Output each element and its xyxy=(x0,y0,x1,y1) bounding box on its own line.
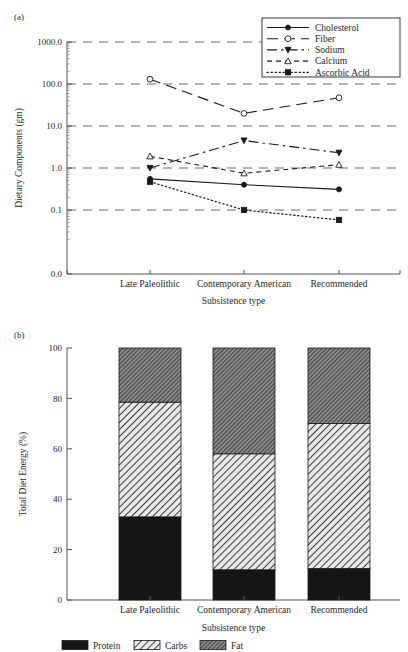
marker-filled-square xyxy=(285,70,290,75)
y-tick-label-80: 80 xyxy=(53,394,63,404)
bar-segment-fat xyxy=(213,348,275,454)
x-axis-title: Subsistence type xyxy=(202,296,266,306)
y-tick-label-60: 60 xyxy=(53,444,63,454)
x-category-label-2: Recommended xyxy=(311,279,368,289)
bar-segment-carbs xyxy=(213,454,275,570)
y-tick-label-100.0: 100.0 xyxy=(42,79,63,89)
legend-label: Fiber xyxy=(315,34,336,44)
legend-item-protein: Protein xyxy=(62,641,121,651)
y-tick-label-100: 100 xyxy=(49,343,63,353)
marker-filled-circle xyxy=(242,182,247,187)
legend: CholesterolFiberSodiumCalciumAscorbic Ac… xyxy=(262,18,400,78)
series-calcium xyxy=(147,153,342,176)
bar-segment-protein xyxy=(308,569,370,601)
x-category-label-1: Contemporary American xyxy=(197,605,291,615)
y-tick-label-20: 20 xyxy=(53,545,63,555)
y-tick-label-10.0: 10.0 xyxy=(46,121,62,131)
series-fiber xyxy=(147,76,342,116)
legend-label: Cholesterol xyxy=(315,23,359,33)
marker-open-circle xyxy=(241,110,247,116)
y-tick-label-1.0: 1.0 xyxy=(51,163,63,173)
line-chart-svg: 1000.0100.010.01.00.10.0Late Paleolithic… xyxy=(0,0,408,322)
y-axis-title: Dietary Components (gm) xyxy=(14,108,25,208)
x-axis-title: Subsistence type xyxy=(202,623,266,633)
x-category-label-1: Contemporary American xyxy=(197,279,291,289)
x-category-label-2: Recommended xyxy=(311,605,368,615)
legend-label: Ascorbic Acid xyxy=(315,68,370,78)
legend-label: Fat xyxy=(231,641,244,651)
y-tick-label-1000.0: 1000.0 xyxy=(37,37,62,47)
y-tick-label-40: 40 xyxy=(53,494,63,504)
y-axis-title: Total Diet Energy (%) xyxy=(18,432,29,516)
bar-segment-carbs xyxy=(119,402,181,517)
legend: ProteinCarbsFat xyxy=(62,641,244,651)
marker-open-circle xyxy=(285,36,291,42)
legend-item-carbs: Carbs xyxy=(134,641,187,651)
bar-group-1 xyxy=(213,348,275,600)
bar-segment-protein xyxy=(119,517,181,600)
series-line xyxy=(150,141,339,168)
marker-filled-square xyxy=(147,179,152,184)
panel-a-tag: (a) xyxy=(14,12,24,22)
marker-open-triangle-up xyxy=(147,153,153,159)
bar-segment-carbs xyxy=(308,424,370,569)
marker-filled-triangle-down xyxy=(241,138,247,144)
bar-segment-fat xyxy=(308,348,370,424)
bar-segment-protein xyxy=(213,570,275,600)
legend-swatch xyxy=(134,641,160,650)
legend-swatch xyxy=(200,641,226,650)
marker-filled-square xyxy=(241,207,246,212)
y-tick-label-0.1: 0.1 xyxy=(51,205,62,215)
marker-open-circle xyxy=(147,76,153,82)
stacked-bar-chart-svg: 020406080100Late PaleolithicContemporary… xyxy=(0,322,408,652)
legend-label: Protein xyxy=(93,641,121,651)
y-tick-label-0.0: 0.0 xyxy=(51,269,63,279)
bar-group-2 xyxy=(308,348,370,600)
legend-label: Sodium xyxy=(315,45,345,55)
x-category-label-0: Late Paleolithic xyxy=(120,279,180,289)
legend-swatch xyxy=(62,641,88,650)
panel-b-tag: (b) xyxy=(14,330,25,340)
legend-label: Carbs xyxy=(165,641,187,651)
legend-label: Calcium xyxy=(315,56,348,66)
marker-open-circle xyxy=(336,95,342,101)
panel-a-line-chart: (a) 1000.0100.010.01.00.10.0Late Paleoli… xyxy=(0,0,408,322)
legend-item-fat: Fat xyxy=(200,641,244,651)
panel-b-bar-chart: (b) 020406080100Late PaleolithicContempo… xyxy=(0,322,408,652)
marker-filled-square xyxy=(336,217,341,222)
marker-open-triangle-up xyxy=(336,161,342,167)
bar-segment-fat xyxy=(119,348,181,402)
marker-filled-circle xyxy=(337,187,342,192)
y-tick-label-0: 0 xyxy=(58,595,63,605)
series-sodium xyxy=(147,138,342,171)
marker-filled-circle xyxy=(286,25,291,30)
x-category-label-0: Late Paleolithic xyxy=(120,605,180,615)
bar-group-0 xyxy=(119,348,181,600)
